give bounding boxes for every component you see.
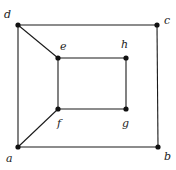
- vertex-label-c: c: [164, 14, 170, 27]
- vertex-b: [155, 144, 160, 149]
- vertex-label-a: a: [6, 152, 13, 165]
- vertex-label-e: e: [60, 40, 67, 53]
- edge-a-f: [18, 109, 58, 147]
- vertex-label-d: d: [4, 8, 11, 21]
- vertex-h: [123, 55, 128, 60]
- vertex-label-f: f: [56, 117, 63, 130]
- vertex-label-b: b: [164, 150, 171, 163]
- vertex-f: [55, 106, 60, 111]
- edge-d-e: [18, 25, 58, 58]
- vertex-label-g: g: [122, 117, 129, 130]
- edges-group: [18, 25, 158, 147]
- vertex-a: [15, 144, 20, 149]
- graph-diagram: abcdefgh: [0, 0, 176, 170]
- vertex-d: [15, 22, 20, 27]
- edge-b-c: [157, 25, 158, 147]
- vertex-label-h: h: [121, 38, 128, 51]
- vertex-e: [55, 55, 60, 60]
- vertex-c: [154, 22, 159, 27]
- vertex-g: [123, 106, 128, 111]
- labels-group: abcdefgh: [4, 8, 171, 165]
